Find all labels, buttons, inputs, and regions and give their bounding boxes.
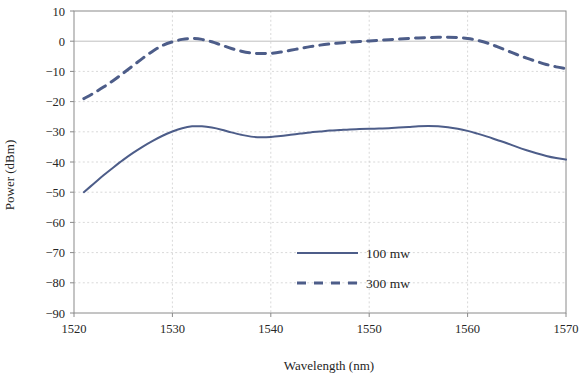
y-tick-label: 10 <box>53 5 66 19</box>
y-tick-label: −30 <box>45 125 65 139</box>
x-tick-label: 1570 <box>554 322 579 336</box>
x-tick-label: 1520 <box>62 322 87 336</box>
y-tick-label: −70 <box>45 246 65 260</box>
y-tick-label: −80 <box>45 276 65 290</box>
series-layer <box>84 37 566 192</box>
legend-label-2: 300 mw <box>366 276 410 291</box>
y-tick-label: −60 <box>45 216 65 230</box>
y-tick-label: −20 <box>45 95 65 109</box>
series-line-2 <box>84 37 566 98</box>
x-tick-label: 1530 <box>160 322 185 336</box>
chart-figure: 100−10−20−30−40−50−60−70−80−901520153015… <box>0 0 588 378</box>
legend-label-1: 100 mw <box>366 246 410 261</box>
y-axis-title: Power (dBm) <box>2 140 17 210</box>
power-vs-wavelength-chart: 100−10−20−30−40−50−60−70−80−901520153015… <box>0 0 588 378</box>
x-tick-label: 1550 <box>357 322 382 336</box>
x-tick-label: 1540 <box>258 322 283 336</box>
y-tick-label: 0 <box>59 35 65 49</box>
series-line-1 <box>84 126 566 192</box>
tick-layer: 100−10−20−30−40−50−60−70−80−901520153015… <box>45 5 578 337</box>
x-tick-label: 1560 <box>455 322 480 336</box>
grid-layer <box>74 11 566 313</box>
legend: 100 mw300 mw <box>297 246 410 291</box>
y-tick-label: −90 <box>45 307 65 321</box>
y-tick-label: −10 <box>45 65 65 79</box>
y-tick-label: −40 <box>45 156 65 170</box>
x-axis-title: Wavelength (nm) <box>284 358 374 373</box>
y-tick-label: −50 <box>45 186 65 200</box>
